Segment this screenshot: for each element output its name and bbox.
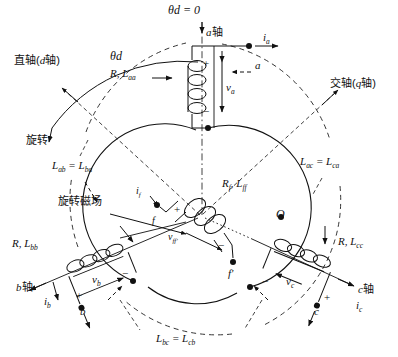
voltage-c-label: vc — [286, 276, 294, 290]
voltage-a-label: va — [226, 82, 235, 96]
current-c-label: ic — [356, 300, 362, 314]
rotor-dot-c — [247, 284, 253, 290]
theta-d-label: θd — [110, 50, 122, 62]
terminal-c-label: c — [314, 306, 319, 317]
current-f-label: if — [136, 186, 141, 199]
b-axis-label: b轴 — [16, 282, 33, 293]
mutual-ab-label: Lab = Lba — [52, 160, 92, 174]
terminal-dot-f-prime — [230, 259, 236, 265]
mutual-ac-label: Lac = Lca — [300, 156, 339, 170]
phase-c-param-label: R, Lcc — [338, 236, 363, 250]
voltage-arrow-f — [186, 233, 222, 250]
c-axis-label: c轴 — [358, 284, 374, 295]
b-axis-line — [30, 218, 198, 290]
plus-c-label: + — [324, 292, 330, 303]
voltage-b-label: vb — [92, 274, 101, 288]
phase-b-param-label: R, Lbb — [12, 238, 38, 252]
center-point-label: O — [276, 208, 285, 220]
quadrature-axis-label: 交轴(q轴) — [330, 78, 376, 89]
flux-circle-dashed — [70, 43, 341, 335]
plus-f-label: + — [174, 204, 180, 215]
minus-f-label: − — [218, 240, 224, 251]
c-axis-arrow — [338, 279, 354, 286]
phase-a-param-label: R, Laa — [110, 68, 136, 82]
plus-b-label: + — [76, 290, 82, 301]
c-axis-line-inner — [205, 218, 252, 239]
rotor-dot-b — [130, 278, 136, 284]
param-arrow-b — [120, 226, 133, 242]
a-axis-label: a轴 — [206, 27, 223, 38]
current-arrow-f — [150, 196, 158, 206]
field-param-label: Rf, Lff — [222, 178, 247, 192]
current-a-label: ia — [263, 32, 270, 46]
theta-d-zero-label: θd = 0 — [168, 4, 200, 16]
minus-b-label: − — [122, 268, 128, 279]
current-b-label: ib — [44, 296, 51, 310]
d-axis-arrow — [62, 88, 78, 102]
terminal-dot-a — [246, 43, 252, 49]
terminal-a-label: a — [255, 60, 261, 71]
plus-a-label: + — [203, 58, 209, 69]
rotor-dot-a — [205, 125, 211, 131]
direct-axis-label: 直轴(d轴) — [14, 55, 60, 66]
terminal-f-label: f — [152, 216, 155, 226]
q-axis-line — [203, 92, 336, 214]
rotation-label: 旋转 — [26, 135, 48, 146]
terminal-f-prime-label: f' — [228, 268, 233, 279]
minus-a-label: − — [203, 106, 209, 117]
rotation-arrow — [49, 128, 52, 142]
rotating-field-label: 旋转磁场 — [58, 196, 102, 207]
mutual-bc-label: Lbc = Lcb — [156, 333, 195, 347]
terminal-b-label: b — [80, 306, 86, 317]
machine-diagram: θd = 0 a轴 θd 直轴(d轴) 旋转 交轴(q轴) R, Laa R, … — [0, 0, 398, 357]
q-axis-arrow — [322, 90, 338, 105]
current-arrow-b — [53, 282, 58, 300]
minus-c-label: − — [262, 276, 268, 287]
phase-b-winding — [61, 241, 149, 330]
voltage-f-label: vff' — [168, 232, 178, 245]
